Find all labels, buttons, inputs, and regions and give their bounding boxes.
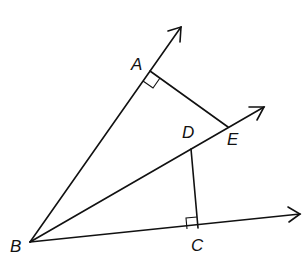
right-angle-mark-c-icon xyxy=(186,217,197,229)
label-d: D xyxy=(182,124,194,141)
ray-ba xyxy=(30,27,181,242)
label-c: C xyxy=(191,237,203,254)
segment-ae xyxy=(150,71,228,127)
right-angle-mark-a-icon xyxy=(143,78,160,88)
label-a: A xyxy=(131,56,142,73)
geometry-diagram: A B C D E xyxy=(0,0,308,265)
segment-dc xyxy=(191,149,198,228)
label-e: E xyxy=(227,131,238,148)
label-b: B xyxy=(10,238,21,255)
diagram-svg xyxy=(0,0,308,265)
